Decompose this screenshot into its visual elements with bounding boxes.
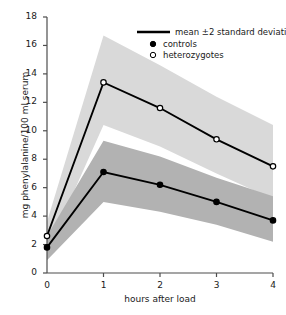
y-tick-label: 10 — [15, 126, 37, 135]
legend-label-mean-line: mean ±2 standard deviations — [175, 28, 286, 37]
legend-label-heterozygotes: heterozygotes — [163, 51, 224, 60]
x-axis-title: hours after load — [47, 294, 273, 304]
y-tick-label: 6 — [15, 183, 37, 192]
x-tick-label: 3 — [209, 281, 225, 290]
data-point — [101, 80, 106, 85]
x-tick-label: 0 — [39, 281, 55, 290]
data-point — [270, 218, 275, 223]
y-tick-label: 12 — [15, 97, 37, 106]
x-tick-label: 2 — [152, 281, 168, 290]
data-point — [44, 233, 49, 238]
data-point — [270, 164, 275, 169]
y-tick-label: 14 — [15, 69, 37, 78]
chart-container: mean ±2 standard deviations controls het… — [0, 0, 286, 315]
legend-label-controls: controls — [163, 40, 197, 49]
x-tick-label: 4 — [265, 281, 281, 290]
x-tick-label: 1 — [96, 281, 112, 290]
legend-filled-circle-marker — [150, 41, 155, 46]
legend-open-circle-marker — [150, 52, 155, 57]
y-tick-label: 8 — [15, 154, 37, 163]
y-axis-title: mg phenylalanine/100 ml serum — [20, 60, 30, 230]
data-point — [157, 105, 162, 110]
data-point — [101, 169, 106, 174]
data-point — [44, 245, 49, 250]
y-tick-label: 16 — [15, 40, 37, 49]
y-tick-label: 0 — [15, 268, 37, 277]
y-tick-label: 4 — [15, 211, 37, 220]
y-tick-label: 2 — [15, 240, 37, 249]
data-point — [157, 182, 162, 187]
data-point — [214, 137, 219, 142]
plot-area — [0, 0, 286, 315]
data-point — [214, 199, 219, 204]
y-tick-label: 18 — [15, 12, 37, 21]
